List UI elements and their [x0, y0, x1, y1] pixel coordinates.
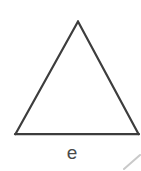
label-layer: e	[0, 0, 141, 171]
triangle-side-label-e: e	[57, 143, 87, 163]
